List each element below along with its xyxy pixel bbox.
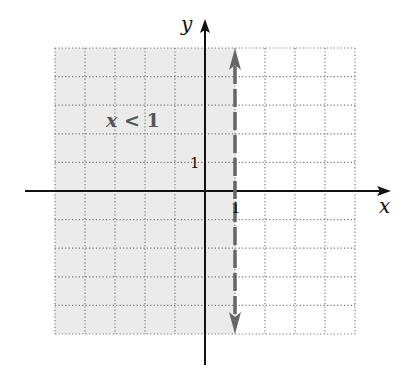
x-tick-label-1: 1 (231, 199, 241, 217)
inequality-graph: y x 1 1 x < 1 (0, 0, 414, 384)
plot-canvas: y x 1 1 x < 1 (0, 0, 414, 384)
y-axis-label: y (180, 12, 193, 36)
region-label-variable: x (105, 109, 118, 131)
y-tick-label-1: 1 (190, 154, 200, 172)
x-axis-label: x (379, 194, 390, 218)
region-label-relation: < 1 (117, 109, 159, 131)
region-label: x < 1 (105, 109, 160, 131)
